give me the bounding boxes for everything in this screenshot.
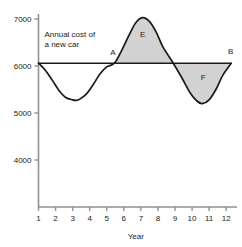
region-label-f: F [201,73,206,82]
shaded-region-f [173,63,231,103]
x-axis-tick-label: 11 [205,214,214,223]
y-axis-tick-label: 5000 [14,109,32,118]
y-axis-tick-label: 6000 [14,62,32,71]
x-axis-tick-label: 4 [87,214,92,223]
x-axis-tick-label: 2 [53,214,58,223]
x-axis-tick-label: 8 [156,214,161,223]
x-axis-title: Year [128,232,145,241]
y-axis-tick-labels: 7000600050004000 [14,15,32,165]
x-axis-tick-label: 7 [139,214,144,223]
x-axis-tick-label: 9 [173,214,178,223]
chart-screenshot: 7000600050004000 123456789101112 Annual … [0,0,242,247]
x-axis-tick-label: 3 [70,214,75,223]
x-axis-tick-label: 1 [36,214,41,223]
series-annotation-line2: a new car [44,40,79,49]
x-axis-tick-label: 10 [188,214,197,223]
point-label-b: B [228,47,233,56]
y-axis-tick-label: 7000 [14,15,32,24]
line-chart: 7000600050004000 123456789101112 Annual … [0,0,242,247]
x-axis-tick-label: 12 [222,214,231,223]
x-axis-tick-label: 5 [105,214,110,223]
point-label-a: A [110,48,116,57]
region-label-e: E [140,30,145,39]
x-axis-tick-labels: 123456789101112 [36,214,231,223]
y-axis-tick-label: 4000 [14,156,32,165]
x-axis-tick-label: 6 [122,214,127,223]
shaded-region-e [114,18,173,64]
series-annotation-line1: Annual cost of [44,30,95,39]
